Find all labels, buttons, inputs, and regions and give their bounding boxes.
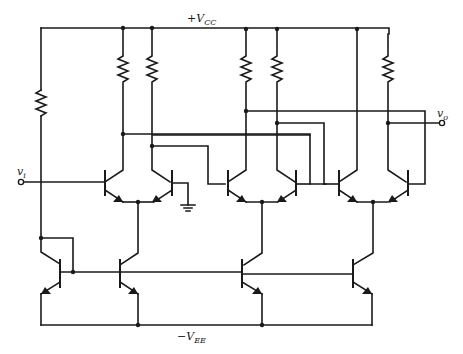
output-wiring <box>386 121 440 125</box>
stage1-diff-pair <box>23 170 195 211</box>
vcc-label: +VCC <box>187 13 216 27</box>
interstage-wiring <box>121 109 425 184</box>
stage3-collectors <box>339 29 406 182</box>
stage1-load-resistors <box>105 28 170 182</box>
vi-label: vi <box>17 166 26 180</box>
vee-rail <box>41 323 372 327</box>
circuit-schematic <box>0 0 463 354</box>
vee-label: −VEE <box>177 331 206 345</box>
current-mirror <box>39 202 373 325</box>
stage2-load-resistors <box>228 29 295 182</box>
stage2-diff-pair <box>228 170 310 204</box>
vcc-rail <box>41 26 389 90</box>
bias-resistor <box>36 90 46 238</box>
vo-label: vo <box>437 108 448 122</box>
